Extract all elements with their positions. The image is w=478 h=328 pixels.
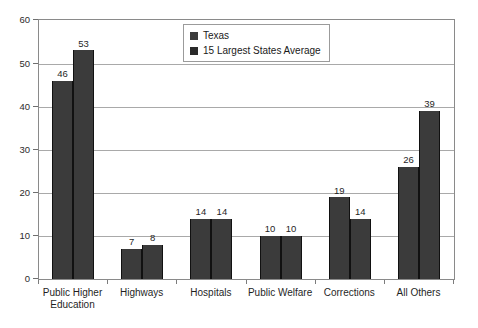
- bar-value-texas-corrections: 19: [329, 186, 350, 196]
- y-tick-label-50: 50: [4, 59, 30, 69]
- bar-group-all-others: 26 39: [385, 20, 454, 279]
- bar-value-average-public-higher-education: 53: [73, 39, 94, 49]
- x-tick-mark-4: [315, 280, 316, 284]
- bar-average-highways[interactable]: [142, 245, 163, 280]
- x-tick-mark-1: [107, 280, 108, 284]
- bar-value-texas-public-higher-education: 46: [52, 69, 73, 79]
- bar-value-average-corrections: 14: [350, 207, 371, 217]
- y-tick-label-30: 30: [4, 145, 30, 155]
- legend-item-average[interactable]: 15 Largest States Average: [190, 44, 323, 58]
- bar-average-all-others[interactable]: [419, 111, 440, 279]
- x-tick-mark-6: [453, 280, 454, 284]
- bar-texas-highways[interactable]: [121, 249, 142, 279]
- legend-swatch-texas-icon: [190, 32, 198, 40]
- bar-group-highways: 7 8: [108, 20, 177, 279]
- x-tick-mark-3: [246, 280, 247, 284]
- x-tick-mark-5: [384, 280, 385, 284]
- x-label-all-others: All Others: [376, 287, 461, 299]
- legend-swatch-average-icon: [190, 47, 198, 55]
- bar-average-corrections[interactable]: [350, 219, 371, 279]
- legend-item-texas[interactable]: Texas: [190, 29, 323, 43]
- x-tick-mark-0: [38, 280, 39, 284]
- bar-value-texas-all-others: 26: [398, 155, 419, 165]
- legend-label-average: 15 Largest States Average: [203, 46, 321, 56]
- y-tick-mark-20: [33, 192, 38, 193]
- y-tick-mark-0: [33, 278, 38, 279]
- bar-value-texas-highways: 7: [121, 237, 142, 247]
- y-tick-label-20: 20: [4, 188, 30, 198]
- bar-texas-public-welfare[interactable]: [260, 236, 281, 279]
- y-tick-label-60: 60: [4, 15, 30, 25]
- y-tick-mark-60: [33, 19, 38, 20]
- y-tick-mark-50: [33, 63, 38, 64]
- bar-value-average-public-welfare: 10: [281, 224, 302, 234]
- x-tick-mark-2: [176, 280, 177, 284]
- y-tick-label-10: 10: [4, 231, 30, 241]
- bar-texas-hospitals[interactable]: [190, 219, 211, 279]
- bar-value-average-highways: 8: [142, 233, 163, 243]
- bar-value-average-all-others: 39: [419, 99, 440, 109]
- bar-value-texas-hospitals: 14: [190, 207, 211, 217]
- y-tick-label-40: 40: [4, 102, 30, 112]
- y-tick-label-0: 0: [4, 274, 30, 284]
- y-tick-mark-30: [33, 149, 38, 150]
- bar-texas-all-others[interactable]: [398, 167, 419, 279]
- bar-chart: 60 50 40 30 20 10 0 46 53 7 8: [0, 0, 478, 328]
- legend-label-texas: Texas: [203, 31, 229, 41]
- bar-average-public-welfare[interactable]: [281, 236, 302, 279]
- bar-texas-public-higher-education[interactable]: [52, 81, 73, 279]
- x-axis-labels: Public Higher Education Highways Hospita…: [38, 287, 455, 327]
- bar-texas-corrections[interactable]: [329, 197, 350, 279]
- y-tick-mark-10: [33, 235, 38, 236]
- bar-value-texas-public-welfare: 10: [260, 224, 281, 234]
- y-tick-mark-40: [33, 106, 38, 107]
- legend: Texas 15 Largest States Average: [183, 24, 330, 62]
- bar-group-public-higher-education: 46 53: [39, 20, 108, 279]
- x-axis-ticks: [38, 280, 455, 286]
- bar-average-public-higher-education[interactable]: [73, 50, 94, 279]
- bar-average-hospitals[interactable]: [211, 219, 232, 279]
- bar-value-average-hospitals: 14: [211, 207, 232, 217]
- y-axis: 60 50 40 30 20 10 0: [0, 19, 38, 280]
